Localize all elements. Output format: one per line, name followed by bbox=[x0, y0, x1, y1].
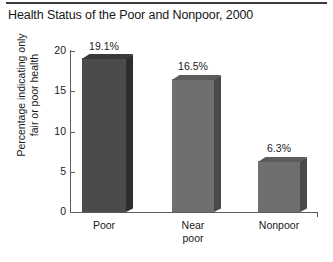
bar-poor-top bbox=[82, 54, 133, 59]
y-tick-15 bbox=[71, 91, 75, 92]
category-label-near-poor: Near poor bbox=[163, 219, 223, 244]
category-label-nonpoor: Nonpoor bbox=[249, 219, 309, 232]
y-axis-title: Percentage indicating only fair or poor … bbox=[15, 15, 41, 175]
bar-nonpoor-face bbox=[258, 161, 300, 212]
bar-value-nonpoor: 6.3% bbox=[249, 143, 309, 154]
bar-nonpoor bbox=[258, 161, 300, 212]
category-label-nonpoor-line-1: Nonpoor bbox=[249, 219, 309, 232]
bar-near-poor-top bbox=[172, 75, 221, 80]
bar-near-poor-side bbox=[214, 76, 221, 212]
category-label-poor: Poor bbox=[74, 219, 134, 232]
y-axis-title-line-2: fair or poor health bbox=[28, 15, 41, 175]
y-tick-10 bbox=[71, 132, 75, 133]
bar-near-poor-face bbox=[172, 79, 214, 212]
x-axis-line bbox=[70, 212, 318, 213]
category-label-near-poor-line-1: Near bbox=[163, 219, 223, 232]
x-axis-endcap bbox=[317, 212, 318, 217]
category-label-near-poor-line-2: poor bbox=[163, 232, 223, 245]
y-tick-5 bbox=[71, 172, 75, 173]
plot-area: 0 5 10 15 20 Percentage indicating only … bbox=[0, 0, 333, 262]
category-label-poor-line-1: Poor bbox=[74, 219, 134, 232]
bar-value-near-poor: 16.5% bbox=[163, 61, 223, 72]
bar-poor bbox=[82, 58, 126, 212]
y-tick-0 bbox=[71, 212, 75, 213]
bar-nonpoor-top bbox=[258, 157, 307, 162]
bar-poor-face bbox=[82, 58, 126, 212]
chart-figure: Health Status of the Poor and Nonpoor, 2… bbox=[0, 0, 333, 262]
bar-nonpoor-side bbox=[300, 158, 307, 212]
y-axis-title-line-1: Percentage indicating only bbox=[15, 15, 28, 175]
bar-poor-side bbox=[126, 55, 133, 212]
bar-value-poor: 19.1% bbox=[74, 41, 134, 52]
y-tick-label-0: 0 bbox=[26, 206, 66, 217]
bar-near-poor bbox=[172, 79, 214, 212]
